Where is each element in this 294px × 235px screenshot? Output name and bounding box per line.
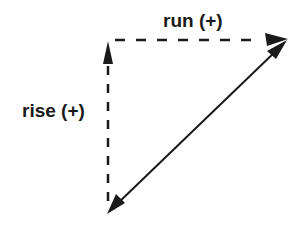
hypotenuse-bottom-arrowhead-icon [107, 194, 125, 214]
hypotenuse-line [116, 49, 278, 205]
hypotenuse-arrow [107, 40, 287, 214]
rise-label: rise (+) [22, 100, 85, 121]
rise-arrow [103, 41, 113, 201]
run-arrow [115, 33, 288, 46]
run-label: run (+) [163, 10, 223, 31]
rise-arrowhead-icon [103, 41, 113, 64]
rise-run-diagram: run (+) rise (+) [0, 0, 294, 235]
